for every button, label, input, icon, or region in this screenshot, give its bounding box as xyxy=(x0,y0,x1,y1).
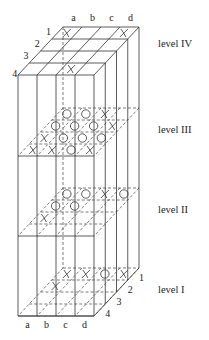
tic-tac-toe-3d-diagram: abcd1234abcd1234level IVlevel IIIlevel I… xyxy=(0,0,209,340)
o-mark xyxy=(59,134,67,142)
o-mark xyxy=(78,134,86,142)
level-label-II: level II xyxy=(158,204,189,215)
column-label-top: a xyxy=(71,12,76,23)
column-label-top: b xyxy=(90,12,95,23)
column-label-top: d xyxy=(128,12,133,23)
o-mark xyxy=(120,190,128,198)
o-mark xyxy=(97,134,105,142)
o-mark xyxy=(82,110,90,118)
o-mark xyxy=(63,110,71,118)
box-edges xyxy=(18,27,139,316)
level-label-III: level III xyxy=(158,124,192,135)
column-label-bottom: b xyxy=(44,319,49,330)
row-label-top: 3 xyxy=(23,50,28,61)
column-label-bottom: a xyxy=(25,319,30,330)
row-label-bottom: 1 xyxy=(139,272,144,283)
level-label-I: level I xyxy=(158,284,185,295)
level-label-IV: level IV xyxy=(158,38,193,49)
row-label-bottom: 2 xyxy=(128,284,133,295)
o-mark xyxy=(82,190,90,198)
column-label-bottom: d xyxy=(82,319,87,330)
axis-labels: abcd1234abcd1234level IVlevel IIIlevel I… xyxy=(12,12,192,330)
row-label-top: 4 xyxy=(12,68,17,79)
row-label-top: 1 xyxy=(46,26,51,37)
row-label-bottom: 3 xyxy=(116,296,121,307)
column-label-top: c xyxy=(109,12,114,23)
level-grids xyxy=(18,27,139,316)
row-label-bottom: 4 xyxy=(105,308,110,319)
o-mark xyxy=(67,146,75,154)
o-mark xyxy=(63,190,71,198)
row-label-top: 2 xyxy=(35,38,40,49)
column-label-bottom: c xyxy=(63,319,68,330)
